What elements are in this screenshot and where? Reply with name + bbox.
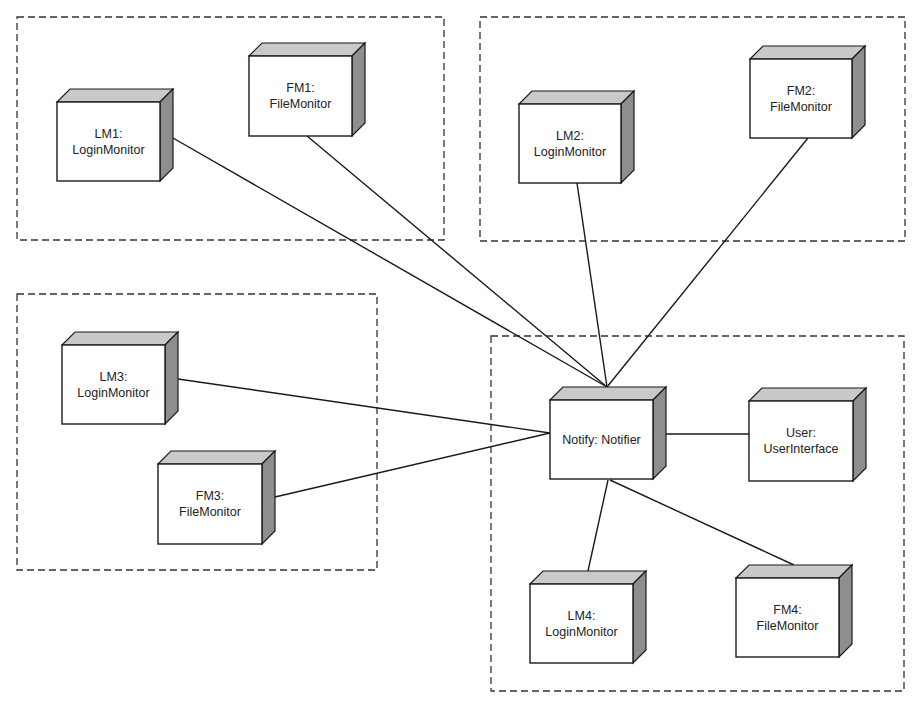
- node-side-face: [621, 91, 634, 183]
- node-lm1[interactable]: LM1:LoginMonitor: [57, 89, 173, 181]
- node-label-line: FM1:: [286, 81, 314, 95]
- node-front-face: [750, 59, 852, 138]
- node-front-face: [249, 56, 352, 136]
- edge-lm2-notify: [577, 183, 607, 387]
- node-top-face: [749, 388, 866, 401]
- node-label-line: FileMonitor: [179, 505, 241, 519]
- node-label-line: LoginMonitor: [72, 143, 144, 157]
- edge-notify-lm4: [588, 480, 608, 571]
- node-lm4[interactable]: LM4:LoginMonitor: [530, 571, 646, 663]
- node-notify[interactable]: Notify: Notifier: [550, 387, 666, 479]
- node-side-face: [262, 451, 275, 544]
- node-side-face: [839, 565, 852, 657]
- node-front-face: [158, 464, 262, 544]
- node-top-face: [530, 571, 646, 584]
- node-fm4[interactable]: FM4:FileMonitor: [736, 565, 852, 657]
- node-label-line: FM2:: [787, 84, 815, 98]
- node-lm2[interactable]: LM2:LoginMonitor: [519, 91, 634, 183]
- node-label-line: FileMonitor: [757, 619, 819, 633]
- node-top-face: [750, 46, 865, 59]
- node-side-face: [852, 46, 865, 138]
- node-lm3[interactable]: LM3:LoginMonitor: [62, 332, 178, 424]
- node-side-face: [165, 332, 178, 424]
- node-side-face: [633, 571, 646, 663]
- node-label: Notify: Notifier: [562, 433, 641, 447]
- node-front-face: [736, 578, 839, 657]
- node-top-face: [62, 332, 178, 345]
- node-top-face: [736, 565, 852, 578]
- node-front-face: [62, 345, 165, 424]
- node-label-line: LoginMonitor: [545, 625, 617, 639]
- node-label-line: LoginMonitor: [77, 386, 149, 400]
- edge-lm3-notify: [178, 379, 550, 433]
- node-label-line: LoginMonitor: [534, 145, 606, 159]
- node-side-face: [853, 388, 866, 481]
- node-fm2[interactable]: FM2:FileMonitor: [750, 46, 865, 138]
- node-label-line: LM3:: [100, 370, 128, 384]
- node-label-line: UserInterface: [763, 442, 838, 456]
- edge-fm3-notify: [275, 433, 550, 497]
- node-label-line: Notify: Notifier: [562, 433, 641, 447]
- node-fm1[interactable]: FM1:FileMonitor: [249, 43, 365, 136]
- node-top-face: [550, 387, 666, 400]
- node-label-line: LM1:: [95, 127, 123, 141]
- node-top-face: [158, 451, 275, 464]
- node-front-face: [749, 401, 853, 481]
- node-label-line: FM3:: [196, 489, 224, 503]
- node-label-line: LM4:: [568, 609, 596, 623]
- node-front-face: [530, 584, 633, 663]
- node-label-line: LM2:: [556, 129, 584, 143]
- edge-fm2-notify: [607, 138, 808, 387]
- node-label-line: FileMonitor: [270, 97, 332, 111]
- deployment-diagram: LM1:LoginMonitorFM1:FileMonitorLM2:Login…: [0, 0, 923, 702]
- node-label-line: User:: [786, 426, 816, 440]
- node-label-line: FM4:: [773, 603, 801, 617]
- node-top-face: [57, 89, 173, 102]
- node-side-face: [653, 387, 666, 479]
- edge-notify-fm4: [610, 480, 794, 565]
- node-side-face: [352, 43, 365, 136]
- node-front-face: [57, 102, 160, 181]
- node-label-line: FileMonitor: [770, 100, 832, 114]
- node-fm3[interactable]: FM3:FileMonitor: [158, 451, 275, 544]
- node-user[interactable]: User:UserInterface: [749, 388, 866, 481]
- node-top-face: [249, 43, 365, 56]
- node-top-face: [519, 91, 634, 104]
- node-side-face: [160, 89, 173, 181]
- nodes: LM1:LoginMonitorFM1:FileMonitorLM2:Login…: [57, 43, 866, 663]
- node-front-face: [519, 104, 621, 183]
